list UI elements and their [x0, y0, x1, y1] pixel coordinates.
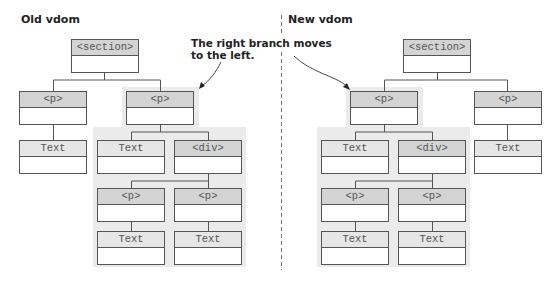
node-label: <div> [175, 141, 241, 157]
node-label: <div> [399, 141, 465, 157]
new-moved-text-node: Text [321, 140, 389, 174]
node-label: <p> [127, 92, 193, 108]
node-label: Text [399, 232, 465, 248]
node-label: <p> [399, 189, 465, 205]
node-label: Text [175, 232, 241, 248]
node-label: Text [98, 141, 164, 157]
node-label: Text [322, 141, 388, 157]
old-div-p1-text-node: Text [97, 231, 165, 265]
node-label: <section> [72, 40, 138, 56]
vdom-diagram: Old vdom New vdom The right branch moves… [0, 0, 558, 284]
new-right-p-node: <p> [474, 91, 542, 125]
old-vdom-title: Old vdom [21, 13, 80, 26]
node-label: <p> [351, 92, 417, 108]
new-div-p2-text-node: Text [398, 231, 466, 265]
old-left-text-node: Text [19, 140, 87, 174]
node-label: <p> [175, 189, 241, 205]
old-div-p2-node: <p> [174, 188, 242, 222]
annotation-line-1: The right branch moves [191, 37, 332, 49]
new-div-p2-node: <p> [398, 188, 466, 222]
annotation-line-2: to the left. [191, 49, 332, 61]
new-div-p1-text-node: Text [321, 231, 389, 265]
old-div-node: <div> [174, 140, 242, 174]
node-label: <section> [404, 40, 470, 56]
node-label: <p> [322, 189, 388, 205]
node-label: Text [98, 232, 164, 248]
annotation: The right branch moves to the left. [191, 37, 332, 61]
node-label: <p> [98, 189, 164, 205]
new-moved-p-node: <p> [350, 91, 418, 125]
node-label: Text [475, 141, 541, 157]
old-div-p2-text-node: Text [174, 231, 242, 265]
new-right-text-node: Text [474, 140, 542, 174]
old-left-p-node: <p> [19, 91, 87, 125]
new-div-node: <div> [398, 140, 466, 174]
old-right-p-node: <p> [126, 91, 194, 125]
node-label: <p> [20, 92, 86, 108]
node-label: Text [20, 141, 86, 157]
new-section-node: <section> [403, 39, 471, 73]
new-vdom-title: New vdom [288, 13, 353, 26]
new-div-p1-node: <p> [321, 188, 389, 222]
node-label: Text [322, 232, 388, 248]
old-section-node: <section> [71, 39, 139, 73]
old-div-p1-node: <p> [97, 188, 165, 222]
node-label: <p> [475, 92, 541, 108]
old-right-text-node: Text [97, 140, 165, 174]
